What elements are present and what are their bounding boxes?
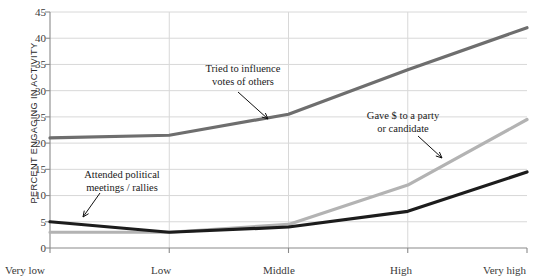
annotation-gave-money: Gave $ to a party or candidate: [336, 110, 470, 135]
annotation-tried-to-influence: Tried to influence votes of others: [183, 63, 303, 88]
plot-area: [0, 0, 551, 278]
line-chart: PERCENT ENGAGING IN ACTIVITY 45 40 35 30…: [0, 0, 551, 278]
annotation-attended-meetings: Attended political meetings / rallies: [58, 169, 186, 194]
